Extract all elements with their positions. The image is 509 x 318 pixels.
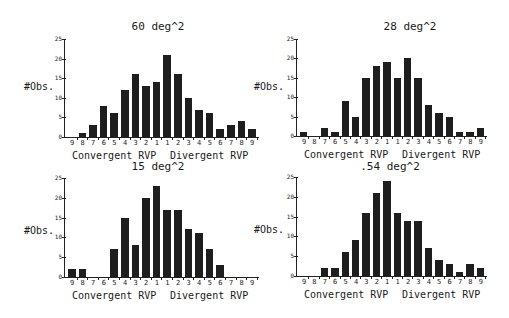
histogram-bar [121,218,129,277]
chart-title: 60 deg^2 [132,20,185,33]
histogram-bar [163,210,171,277]
histogram-bar [362,213,369,276]
y-tick-label: 25 [280,36,294,42]
y-axis-label: #Obs. [254,81,284,92]
histogram-bar [466,132,473,136]
x-tick-label: 9 [299,279,309,286]
y-tick-label: 10 [280,94,294,100]
x-tick-label: 5 [341,279,351,286]
y-tick-label: 5 [280,114,294,120]
histogram-bar [446,264,453,276]
y-tick [294,276,298,277]
x-tick-label: 2 [141,140,151,147]
x-tick-label: 7 [88,280,98,287]
y-axis [64,178,65,277]
y-tick [62,117,66,118]
histogram-bar [446,117,453,136]
x-tick-label: 4 [424,139,434,146]
histogram-bar [477,128,484,136]
x-tick-label: 4 [120,280,130,287]
chart-title: .54 deg^2 [360,160,420,173]
x-tick-label: 6 [445,139,455,146]
y-tick-label: 10 [280,233,294,239]
x-tick-label: 8 [78,280,88,287]
x-tick-label: 6 [99,280,109,287]
x-axis-label-convergent: Convergent RVP [304,149,388,160]
x-axis-label-divergent: Divergent RVP [402,149,480,160]
y-tick [294,236,298,237]
y-tick-label: 20 [280,55,294,61]
y-axis [296,39,297,136]
y-tick [294,256,298,257]
x-tick-label: 8 [309,279,319,286]
x-tick-label: 7 [320,279,330,286]
histogram-bar [174,74,182,137]
y-tick [294,117,298,118]
x-tick-label: 8 [237,280,247,287]
x-tick-label: 1 [152,280,162,287]
histogram-bar [342,101,349,136]
x-tick-label: 7 [455,279,465,286]
x-tick-label: 5 [109,140,119,147]
histogram-bar [435,113,442,136]
histogram-bar [414,221,421,276]
histogram-bar [321,268,328,276]
y-tick [294,58,298,59]
histogram-bar [185,229,193,277]
histogram-bar [414,78,421,136]
x-tick-label: 8 [237,140,247,147]
histogram-bar [394,213,401,276]
x-tick-label: 4 [194,280,204,287]
x-tick-label: 1 [393,279,403,286]
y-tick [62,218,66,219]
x-axis-label-convergent: Convergent RVP [72,290,156,301]
y-tick-label: 5 [48,254,62,260]
histogram-bar [132,74,140,137]
x-tick-label: 7 [226,280,236,287]
x-tick-label: 3 [361,279,371,286]
x-tick-label: 2 [173,280,183,287]
y-tick-label: 0 [280,273,294,279]
y-tick-label: 20 [48,195,62,201]
x-tick-label: 3 [131,140,141,147]
y-axis [296,177,297,276]
x-tick-label: 9 [247,140,257,147]
histogram-bar [79,269,87,277]
y-tick [294,177,298,178]
y-tick [62,78,66,79]
y-tick-label: 10 [48,234,62,240]
x-tick-label: 6 [330,279,340,286]
histogram-bar [477,268,484,276]
x-tick-label: 1 [162,140,172,147]
x-tick-label: 6 [330,139,340,146]
x-tick-label: 5 [205,140,215,147]
x-tick-label: 7 [88,140,98,147]
histogram-bar [227,125,235,137]
histogram-bar [216,129,224,137]
y-tick-label: 20 [48,56,62,62]
x-tick-label: 5 [205,280,215,287]
histogram-bar [352,240,359,276]
x-tick-label: 9 [67,280,77,287]
x-tick-label: 4 [120,140,130,147]
histogram-bar [142,198,150,277]
x-tick-label: 1 [393,139,403,146]
histogram-bar [331,268,338,276]
x-tick-label: 7 [226,140,236,147]
histogram-bar [163,55,171,137]
y-tick-label: 0 [48,274,62,280]
histogram-bar [456,272,463,276]
x-tick-label: 8 [465,139,475,146]
y-tick [294,97,298,98]
y-tick-label: 5 [280,253,294,259]
y-tick-label: 15 [280,214,294,220]
y-tick [294,136,298,137]
y-axis-label: #Obs. [24,81,54,92]
histogram-bar [195,233,203,277]
y-tick-label: 0 [280,133,294,139]
histogram-bar [110,113,118,137]
x-tick-label: 2 [372,279,382,286]
x-tick-label: 7 [320,139,330,146]
x-tick-label: 4 [424,279,434,286]
histogram-bar [373,193,380,276]
